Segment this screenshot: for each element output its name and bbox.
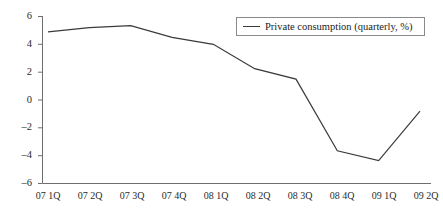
x-tick-label: 08 1Q: [193, 190, 239, 201]
chart-legend: Private consumption (quarterly, %): [236, 17, 425, 36]
y-tick-label: 6: [12, 11, 32, 21]
x-tick-label: 07 1Q: [25, 190, 71, 201]
legend-line-swatch: [243, 26, 260, 27]
x-tick-label: 07 3Q: [109, 190, 155, 201]
data-line-private-consumption: [48, 26, 420, 161]
y-tick-label: –6: [12, 178, 32, 188]
y-tick-label: –2: [12, 122, 32, 132]
x-tick-label: 08 4Q: [319, 190, 365, 201]
legend-label: Private consumption (quarterly, %): [265, 21, 412, 32]
y-tick-label: 4: [12, 39, 32, 49]
y-tick-label: 0: [12, 95, 32, 105]
y-tick-marks: [38, 17, 43, 184]
y-tick-label: –4: [12, 150, 32, 160]
x-tick-label: 09 1Q: [361, 190, 407, 201]
x-tick-label: 08 3Q: [277, 190, 323, 201]
y-tick-label: 2: [12, 67, 32, 77]
x-tick-label: 08 2Q: [235, 190, 281, 201]
x-tick-label: 09 2Q: [403, 190, 443, 201]
x-tick-label: 07 2Q: [67, 190, 113, 201]
x-tick-label: 07 4Q: [151, 190, 197, 201]
